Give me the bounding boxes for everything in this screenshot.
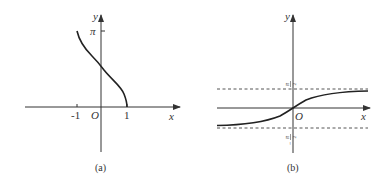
y-axis-label-b: y bbox=[284, 10, 290, 22]
svg-text:2: 2 bbox=[292, 136, 297, 139]
caption-a: (a) bbox=[95, 162, 106, 174]
neg1-tick-label-a: -1 bbox=[71, 109, 80, 121]
upper-asymptote-label: π 2 bbox=[284, 81, 297, 87]
figure-a: y π -1 O 1 x (a) bbox=[25, 10, 180, 174]
diagram-canvas: y π -1 O 1 x (a) y O x π 2 − π 2 (b) bbox=[0, 0, 392, 187]
figure-b: y O x π 2 − π 2 (b) bbox=[217, 10, 370, 174]
x-axis-label-a: x bbox=[168, 110, 174, 122]
origin-label-a: O bbox=[91, 109, 99, 121]
origin-label-b: O bbox=[295, 110, 303, 122]
x-axis-label-b: x bbox=[360, 110, 366, 122]
caption-b: (b) bbox=[287, 162, 299, 174]
lower-asymptote-label: − π 2 bbox=[284, 134, 297, 145]
arccos-curve bbox=[77, 31, 127, 107]
pi-tick-label-a: π bbox=[90, 25, 96, 37]
svg-text:π: π bbox=[284, 82, 290, 86]
svg-text:2: 2 bbox=[292, 83, 297, 86]
svg-text:π: π bbox=[284, 135, 290, 139]
1-tick-label-a: 1 bbox=[124, 109, 130, 121]
svg-text:−: − bbox=[287, 141, 293, 145]
y-axis-label-a: y bbox=[92, 10, 98, 22]
